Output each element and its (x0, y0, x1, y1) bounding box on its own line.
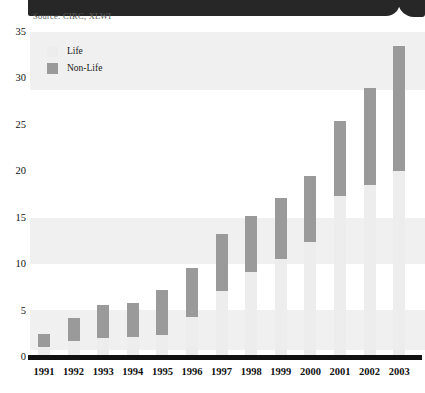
legend-item-non-life: Non-Life (47, 61, 167, 75)
chart-legend: Life Non-Life (47, 44, 167, 78)
legend-swatch-non-life-icon (47, 63, 58, 74)
y-axis-tick-labels: 35302520151050 (0, 0, 26, 393)
y-axis-tick-15: 15 (2, 213, 26, 224)
legend-swatch-life-icon (47, 46, 58, 57)
y-axis-tick-25: 25 (2, 120, 26, 131)
y-axis-tick-30: 30 (2, 73, 26, 84)
y-axis-tick-0: 0 (2, 352, 26, 363)
y-axis-tick-35: 35 (2, 27, 26, 38)
y-axis-tick-10: 10 (2, 259, 26, 270)
legend-label-non-life: Non-Life (67, 63, 102, 73)
x-axis-tick-2003: 2003 (379, 366, 419, 377)
legend-item-life: Life (47, 44, 167, 58)
y-axis-tick-5: 5 (2, 306, 26, 317)
legend-label-life: Life (67, 46, 83, 56)
y-axis-tick-20: 20 (2, 166, 26, 177)
